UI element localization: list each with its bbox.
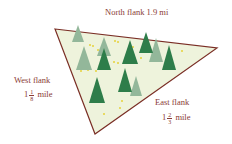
west-unit: mile [37,89,52,99]
east-unit: mile [175,112,190,122]
east-whole: 1 [162,112,166,122]
forest-triangle-figure [0,0,232,144]
east-flank-length: 123 mile [162,112,190,125]
east-flank-label: East flank [155,98,189,107]
west-whole: 1 [24,89,28,99]
west-numerator: 1 [29,89,34,96]
west-fraction: 18 [29,89,34,102]
east-numerator: 2 [167,112,172,119]
west-flank-label: West flank [14,76,50,85]
west-flank-length: 118 mile [24,89,52,102]
west-denominator: 8 [29,96,34,102]
east-denominator: 3 [167,119,172,125]
north-flank-label: North flank 1.9 mi [105,8,168,17]
east-fraction: 23 [167,112,172,125]
